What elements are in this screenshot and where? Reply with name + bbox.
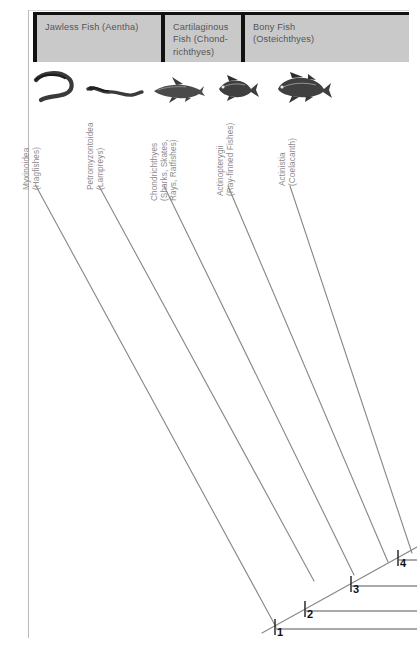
taxon-label-actinopterygii-line-1: Actinopterygii bbox=[216, 123, 226, 196]
taxon-label-actinistia[interactable]: Actinistia (Coelacanth) bbox=[278, 138, 297, 186]
shark-icon bbox=[150, 74, 206, 104]
group-header-row: Jawless Fish (Aentha) Cartilaginous Fish… bbox=[33, 12, 409, 62]
branch-petromyzontoidea bbox=[99, 186, 314, 581]
taxon-label-actinopterygii[interactable]: Actinopterygii (Ray-finned Fishes) bbox=[216, 123, 235, 196]
taxon-label-chondrichthyes-line-1: Chondrichthyes bbox=[150, 139, 160, 201]
node-label-3[interactable]: 3 bbox=[353, 584, 359, 595]
branch-actinistia bbox=[290, 186, 412, 553]
group-header-cartilaginous-line-2: Fish (Chond- bbox=[173, 33, 234, 45]
taxon-label-myxinoidea[interactable]: Myxinoidea (Hagfishes) bbox=[22, 147, 41, 190]
taxon-label-myxinoidea-line-2: (Hagfishes) bbox=[32, 147, 42, 190]
taxon-label-chondrichthyes[interactable]: Chondrichthyes (Sharks, Skates, Rays, Ra… bbox=[150, 139, 179, 201]
taxon-label-actinopterygii-line-2: (Ray-finned Fishes) bbox=[226, 123, 236, 196]
taxon-label-petromyzontoidea[interactable]: Petromyzontoidea (Lampreys) bbox=[86, 122, 105, 190]
taxon-label-actinistia-line-2: (Coelacanth) bbox=[288, 138, 298, 186]
group-header-cartilaginous[interactable]: Cartilaginous Fish (Chond- richthyes) bbox=[161, 12, 241, 62]
trunk-line bbox=[262, 547, 417, 633]
node-label-4[interactable]: 4 bbox=[400, 558, 406, 569]
group-header-jawless-line-1: Jawless Fish (Aentha) bbox=[45, 21, 154, 33]
taxon-label-petromyzontoidea-line-2: (Lampreys) bbox=[96, 122, 106, 190]
group-header-bony[interactable]: Bony Fish (Osteichthyes) bbox=[241, 12, 409, 62]
taxon-label-myxinoidea-line-1: Myxinoidea bbox=[22, 147, 32, 190]
taxon-label-chondrichthyes-line-3: Rays, Ratfishes) bbox=[169, 139, 179, 201]
branch-actinopterygii bbox=[228, 186, 388, 562]
cladogram-page: Jawless Fish (Aentha) Cartilaginous Fish… bbox=[0, 0, 417, 645]
taxon-label-actinistia-line-1: Actinistia bbox=[278, 138, 288, 186]
group-header-jawless[interactable]: Jawless Fish (Aentha) bbox=[33, 12, 161, 62]
left-axis-rule bbox=[28, 10, 29, 638]
branch-chondrichthyes bbox=[164, 186, 354, 575]
hagfish-icon bbox=[33, 70, 85, 104]
taxon-label-petromyzontoidea-line-1: Petromyzontoidea bbox=[86, 122, 96, 190]
node-label-1[interactable]: 1 bbox=[277, 627, 283, 638]
group-header-cartilaginous-line-3: richthyes) bbox=[173, 46, 234, 58]
group-header-bony-line-2: (Osteichthyes) bbox=[253, 33, 402, 45]
group-header-cartilaginous-line-1: Cartilaginous bbox=[173, 21, 234, 33]
rayfinned-fish-icon bbox=[215, 73, 261, 103]
branch-myxinoidea bbox=[36, 186, 276, 627]
group-header-bony-line-1: Bony Fish bbox=[253, 21, 402, 33]
coelacanth-icon bbox=[272, 71, 334, 104]
taxon-label-chondrichthyes-line-2: (Sharks, Skates, bbox=[160, 139, 170, 201]
top-divider bbox=[28, 10, 409, 11]
node-label-2[interactable]: 2 bbox=[307, 609, 313, 620]
lamprey-icon bbox=[86, 83, 144, 105]
